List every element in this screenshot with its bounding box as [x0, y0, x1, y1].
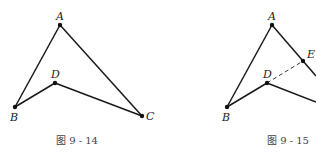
- point-label-a: A: [267, 10, 276, 23]
- segment-a-c: [60, 25, 142, 116]
- figure-9-14: ABCD图 9 - 14: [9, 10, 155, 146]
- point-b-marker: [225, 105, 229, 109]
- point-c-marker: [140, 114, 144, 118]
- geometry-diagram: ABCD图 9 - 14 ABDE图 9 - 15: [0, 0, 316, 153]
- point-label-b: B: [9, 111, 18, 124]
- segment-d-edge2: [267, 83, 316, 102]
- point-b-marker: [13, 105, 17, 109]
- segment-d-e: [267, 61, 303, 83]
- point-d-marker: [53, 81, 57, 85]
- segment-a-b: [227, 25, 272, 107]
- point-label-d: D: [262, 68, 272, 81]
- segment-a-b: [15, 25, 60, 107]
- point-a-marker: [270, 23, 274, 27]
- point-a-marker: [58, 23, 62, 27]
- segment-a-e: [272, 25, 303, 61]
- point-label-b: B: [221, 111, 230, 124]
- point-label-c: C: [146, 110, 155, 123]
- figure-caption: 图 9 - 14: [56, 135, 98, 146]
- point-label-e: E: [306, 48, 315, 61]
- figure-caption: 图 9 - 15: [267, 135, 309, 146]
- point-e-marker: [301, 59, 305, 63]
- point-label-a: A: [55, 10, 64, 23]
- figure-9-15: ABDE图 9 - 15: [221, 10, 316, 146]
- point-d-marker: [265, 81, 269, 85]
- segment-e-edge1: [303, 61, 316, 76]
- segment-d-c: [55, 83, 142, 116]
- point-label-d: D: [50, 68, 60, 81]
